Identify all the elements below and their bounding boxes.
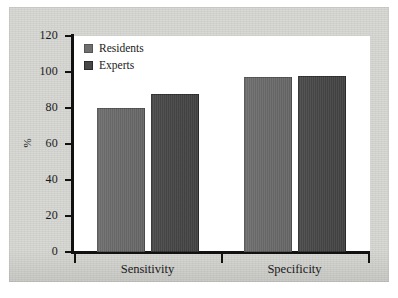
y-tick-mark [65, 107, 73, 109]
y-tick-mark [65, 71, 73, 73]
y-tick-mark [65, 35, 73, 37]
y-tick-label: 0 [18, 245, 58, 257]
y-tick-mark [65, 179, 73, 181]
legend-item-residents: Residents [84, 41, 144, 56]
bar-experts-sensitivity [151, 94, 199, 252]
x-tick-label: Specificity [221, 262, 368, 277]
x-tick-mark [368, 254, 370, 263]
y-tick-label: 80 [18, 101, 58, 113]
bar-residents-specificity [244, 77, 292, 252]
y-tick-label: 60 [18, 137, 58, 149]
y-tick-label: 40 [18, 173, 58, 185]
bar-residents-sensitivity [97, 108, 145, 252]
y-tick-mark [65, 215, 73, 217]
y-tick-label: 100 [18, 65, 58, 77]
legend-swatch-residents-icon [84, 44, 93, 53]
legend-swatch-experts-icon [84, 61, 93, 70]
y-tick-mark [65, 143, 73, 145]
y-tick-mark [65, 251, 73, 253]
chart-figure: % 020406080100120 SensitivitySpecificity… [0, 0, 398, 298]
y-tick-label: 20 [18, 209, 58, 221]
legend-label-experts: Experts [99, 60, 134, 72]
chart-legend: Residents Experts [84, 41, 144, 75]
legend-label-residents: Residents [99, 43, 144, 55]
bar-experts-specificity [298, 76, 346, 252]
legend-item-experts: Experts [84, 58, 144, 73]
y-tick-label: 120 [18, 29, 58, 41]
x-tick-label: Sensitivity [74, 262, 221, 277]
